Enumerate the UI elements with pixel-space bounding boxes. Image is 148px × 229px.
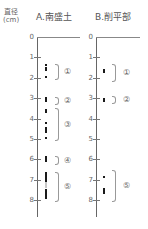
- column-a-title: A.南盛土: [36, 10, 72, 23]
- tick-label: 0: [85, 33, 93, 41]
- axis-tick: [34, 119, 41, 120]
- top-axis-line: [37, 37, 80, 38]
- data-dot: [45, 69, 47, 71]
- tick-label: 3: [85, 94, 93, 102]
- group-bracket: [55, 156, 59, 165]
- group-label: ②: [123, 95, 130, 104]
- group-bracket: [112, 96, 116, 104]
- group-bracket: [55, 172, 59, 202]
- tick-label: 1: [26, 53, 34, 61]
- axis-tick: [34, 180, 41, 181]
- data-dot: [45, 137, 47, 139]
- vertical-axis: [96, 37, 97, 217]
- tick-label: 1: [85, 53, 93, 61]
- axis-tick: [93, 119, 100, 120]
- tick-label: 7: [85, 176, 93, 184]
- axis-tick: [93, 200, 100, 201]
- group-bracket: [112, 170, 116, 202]
- y-axis-label: 直径 (cm): [3, 8, 19, 24]
- data-dot: [45, 100, 47, 102]
- data-dot: [103, 71, 105, 73]
- axis-tick: [34, 139, 41, 140]
- data-dot: [103, 100, 105, 102]
- tick-label: 8: [26, 196, 34, 204]
- group-label: ⑤: [64, 182, 71, 191]
- group-label: ⑤: [123, 181, 130, 190]
- group-label: ④: [64, 156, 71, 165]
- data-dot: [45, 131, 47, 133]
- data-dot: [103, 176, 105, 178]
- tick-label: 8: [85, 196, 93, 204]
- data-dot: [45, 64, 47, 66]
- axis-tick: [34, 159, 41, 160]
- group-label: ③: [64, 120, 71, 129]
- tick-label: 3: [26, 94, 34, 102]
- data-dot: [45, 160, 47, 162]
- tick-label: 2: [85, 74, 93, 82]
- axis-tick: [34, 200, 41, 201]
- axis-tick: [93, 57, 100, 58]
- group-bracket: [55, 64, 59, 80]
- data-dot-faint: [45, 186, 47, 188]
- tick-label: 6: [26, 155, 34, 163]
- axis-tick: [34, 78, 41, 79]
- data-dot: [45, 76, 47, 78]
- axis-tick: [93, 180, 100, 181]
- y-axis-label-unit: (cm): [3, 16, 19, 24]
- column-b-title: B.削平部: [95, 10, 131, 23]
- tick-label: 6: [85, 155, 93, 163]
- tick-label: 4: [85, 115, 93, 123]
- tick-label: 2: [26, 74, 34, 82]
- group-label: ①: [64, 67, 71, 76]
- axis-tick: [93, 139, 100, 140]
- tick-label: 5: [85, 135, 93, 143]
- axis-tick: [93, 159, 100, 160]
- top-axis-line: [96, 37, 140, 38]
- axis-tick: [93, 78, 100, 79]
- group-bracket: [112, 64, 116, 82]
- data-dot: [45, 111, 47, 113]
- axis-tick: [34, 57, 41, 58]
- group-label: ②: [64, 96, 71, 105]
- group-label: ①: [123, 68, 130, 77]
- data-dot: [45, 122, 47, 124]
- axis-tick: [34, 98, 41, 99]
- group-bracket: [55, 97, 59, 105]
- axis-tick: [93, 98, 100, 99]
- vertical-axis: [37, 37, 38, 217]
- tick-label: 0: [26, 33, 34, 41]
- group-bracket: [55, 108, 59, 141]
- data-dot: [103, 192, 105, 194]
- tick-label: 5: [26, 135, 34, 143]
- y-axis-label-title: 直径: [3, 8, 19, 16]
- tick-label: 4: [26, 115, 34, 123]
- data-dot: [45, 197, 47, 199]
- tick-label: 7: [26, 176, 34, 184]
